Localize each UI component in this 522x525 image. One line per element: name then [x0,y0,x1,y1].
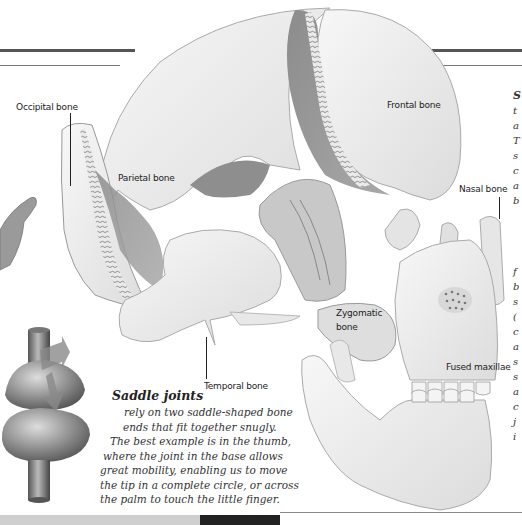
occipital-leader-line [70,113,71,186]
caption-line: great mobility, enabling us to move [100,463,320,478]
caption-line: ends that fit together snugly. [100,420,320,435]
label-zygomatic-bone-line2: bone [336,322,358,332]
cropped-right-text-upper: S t a T s c a b [513,88,521,208]
label-occipital-bone: Occipital bone [16,102,78,112]
saddle-joint-model [2,327,90,503]
temporal-leader-line [206,337,207,379]
caption-line: the palm to touch the little finger. [100,492,320,507]
label-fused-maxillae: Fused maxillae [446,362,511,372]
label-temporal-bone: Temporal bone [204,381,268,391]
label-zygomatic-bone-line1: Zygomatic [336,308,382,318]
caption-line: where the joint in the base allows [100,449,320,464]
hand-fragment [0,197,36,270]
label-nasal-bone: Nasal bone [459,184,507,194]
caption-body: rely on two saddle-shaped bone ends that… [100,405,320,507]
nasal-leader-line [499,197,500,219]
caption-line: The best example is in the thumb, [100,434,320,449]
caption-title: Saddle joints [112,388,203,403]
cropped-right-text-lower: f b s ( c a s s a c j i [513,264,519,444]
caption-line: rely on two saddle-shaped bone [100,405,320,420]
label-parietal-bone: Parietal bone [118,173,175,183]
maxillae-shape [395,240,498,397]
caption-line: the tip in a complete circle, or across [100,478,320,493]
label-frontal-bone: Frontal bone [387,100,441,110]
